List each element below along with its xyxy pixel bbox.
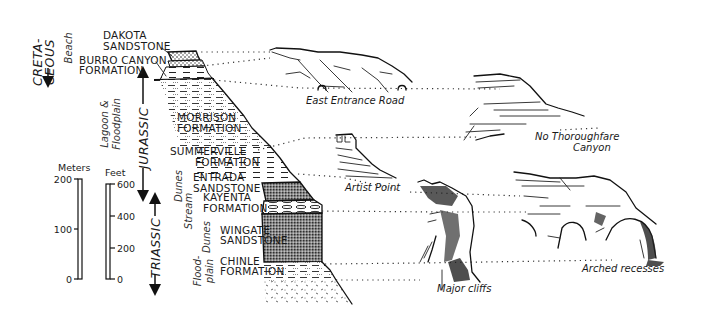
feet-title: Feet <box>105 167 126 178</box>
layer-entrada <box>262 182 314 201</box>
no-thoroughfare-sketch: No Thoroughfare Canyon <box>464 74 620 153</box>
major-cliffs-sketch: Major cliffs <box>418 180 491 294</box>
env-dunes-lower: Dunes <box>201 221 212 253</box>
meters-tick-100: 100 <box>54 224 72 235</box>
caption-arched-recesses: Arched recesses <box>581 263 664 274</box>
layer-burro-canyon <box>160 66 212 80</box>
layer-dakota <box>168 51 200 61</box>
period-triassic: TRIASSIC <box>148 218 163 278</box>
feet-scale: Feet 600 400 200 0 <box>105 167 135 285</box>
meters-scale: Meters 200 100 0 <box>54 162 91 285</box>
env-flood-1: Flood- <box>192 255 203 286</box>
arched-recesses-sketch: Arched recesses <box>514 172 664 274</box>
feet-tick-400: 400 <box>117 211 135 222</box>
meters-tick-0: 0 <box>66 274 72 285</box>
stratigraphic-diagram: CRETA- CEOUS JURASSIC TRIASSIC Beach Lag… <box>0 0 704 318</box>
feet-tick-200: 200 <box>117 243 135 254</box>
period-cretaceous-2: CEOUS <box>42 39 57 85</box>
caption-major-cliffs: Major cliffs <box>437 283 491 294</box>
env-stream: Stream <box>183 193 194 230</box>
formation-summerville-2: FORMATION <box>195 156 259 168</box>
feet-tick-0: 0 <box>117 274 123 285</box>
period-jurassic: JURASSIC <box>136 107 151 172</box>
formation-wingate-2: SANDSTONE <box>220 234 288 246</box>
formation-burro-2: FORMATION <box>79 64 143 76</box>
meters-tick-200: 200 <box>54 174 72 185</box>
meters-title: Meters <box>58 162 91 173</box>
formation-chinle-2: FORMATION <box>220 265 284 277</box>
formation-dakota-2: SANDSTONE <box>103 40 171 52</box>
env-lagoon-2: Floodplain <box>111 98 122 149</box>
east-entrance-sketch: East Entrance Road <box>270 48 412 106</box>
caption-artist-point: Artist Point <box>344 182 401 193</box>
caption-no-thoroughfare-1: No Thoroughfare <box>535 131 620 142</box>
env-lagoon-1: Lagoon & <box>99 100 110 148</box>
artist-point-sketch: Artist Point <box>336 134 401 193</box>
formation-kayenta-2: FORMATION <box>203 202 267 214</box>
env-flood-2: plain <box>204 259 215 284</box>
env-beach: Beach <box>63 33 74 64</box>
layer-kayenta <box>262 200 322 214</box>
caption-no-thoroughfare-2: Canyon <box>573 142 611 153</box>
caption-east-entrance: East Entrance Road <box>306 95 405 106</box>
formation-morrison-2: FORMATION <box>177 122 241 134</box>
feet-tick-600: 600 <box>117 179 135 190</box>
